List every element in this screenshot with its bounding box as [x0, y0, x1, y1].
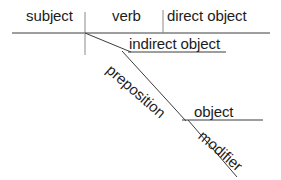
label-subject: subject [26, 8, 73, 23]
label-direct-object: direct object [167, 8, 247, 23]
indirect-object-slant [85, 33, 131, 52]
label-verb: verb [112, 8, 141, 23]
label-indirect-object: indirect object [129, 36, 220, 51]
sentence-diagram: subject verb direct object indirect obje… [0, 0, 281, 180]
label-object: object [194, 104, 233, 119]
